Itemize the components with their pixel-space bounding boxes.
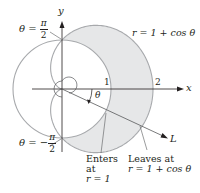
theta-bottom-label: θ = −π2 [19, 133, 56, 154]
y-axis-label: y [58, 6, 64, 16]
enters-label: Enters at r = 1 [86, 154, 118, 184]
polar-diagram: y x 1 2 θ L r = 1 + cos θ θ = π2 θ = −π2… [0, 0, 200, 193]
x-axis-label: x [186, 83, 192, 93]
tick-label-1: 1 [104, 78, 110, 87]
cardioid-equation-label: r = 1 + cos θ [132, 28, 195, 38]
fraction-denominator: 2 [41, 30, 47, 40]
theta-top-label: θ = π2 [19, 19, 48, 40]
theta-top-prefix: θ = [19, 23, 40, 34]
theta-label: θ [95, 91, 100, 100]
theta-top-leader [50, 32, 61, 39]
y-axis-arrow-icon [60, 21, 65, 28]
fraction-numerator: π [48, 133, 56, 144]
ray-arrow-icon [161, 133, 169, 139]
x-axis-arrow-icon [177, 87, 184, 92]
ray-label: L [170, 134, 177, 144]
theta-bottom-prefix: θ = − [19, 137, 48, 148]
theta-arc [89, 89, 92, 102]
leaves-line2: r = 1 + cos θ [128, 164, 191, 174]
enters-line3: r = 1 [86, 174, 118, 184]
theta-arrow-icon [87, 100, 91, 105]
tick-label-2: 2 [155, 78, 161, 87]
leaves-leader [140, 126, 147, 150]
leaves-label: Leaves at r = 1 + cos θ [128, 154, 191, 174]
theta-bottom-fraction: π2 [48, 133, 56, 154]
origin-angle-arc [62, 77, 77, 93]
fraction-numerator: π [40, 19, 48, 30]
fraction-denominator: 2 [49, 144, 55, 154]
theta-top-fraction: π2 [40, 19, 48, 40]
